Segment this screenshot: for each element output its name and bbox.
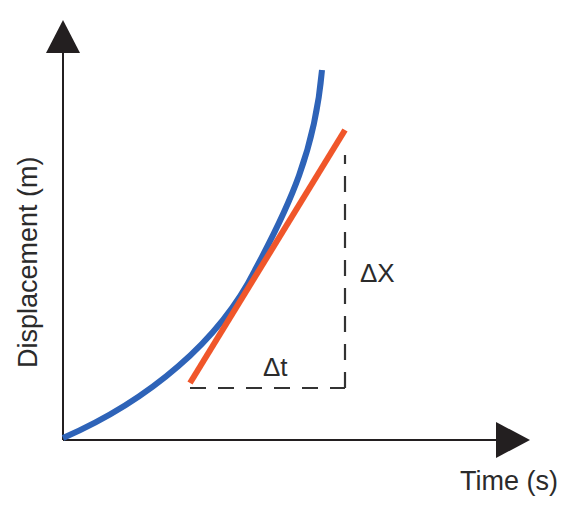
y-axis-label: Displacement (m) [13, 156, 43, 368]
x-axis-label: Time (s) [460, 466, 558, 496]
delta-x-label: ΔX [360, 258, 395, 288]
displacement-time-diagram: ΔX Δt Time (s) Displacement (m) [0, 0, 587, 510]
x-axis-arrowhead [496, 422, 530, 458]
y-axis-arrowhead [46, 20, 80, 53]
tangent-line [190, 130, 345, 383]
delta-t-label: Δt [263, 352, 288, 382]
